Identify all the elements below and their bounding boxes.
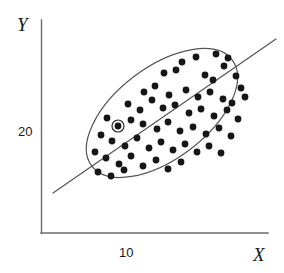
data-point (146, 145, 153, 152)
data-point (98, 132, 105, 139)
data-point (224, 107, 231, 114)
data-point (229, 100, 236, 107)
data-point (122, 143, 129, 150)
data-point (128, 117, 135, 124)
data-point (242, 94, 249, 101)
data-point (193, 54, 200, 61)
data-point (186, 110, 193, 117)
data-point (216, 125, 223, 132)
data-point (213, 51, 220, 58)
regression-line (53, 39, 276, 193)
data-point (153, 157, 160, 164)
data-point (165, 166, 172, 173)
y-axis-title: Y (17, 14, 30, 35)
data-point (182, 141, 189, 148)
data-point (238, 85, 245, 92)
data-point (207, 89, 214, 96)
data-point (137, 107, 144, 114)
data-point (210, 77, 217, 84)
data-point (195, 94, 202, 101)
data-point (165, 119, 172, 126)
data-point (161, 70, 168, 77)
data-point (206, 143, 213, 150)
plot-canvas: Y X 20 10 (0, 0, 284, 273)
data-points-group (92, 51, 249, 180)
y-tick-label-20: 20 (18, 124, 32, 139)
data-point (115, 123, 122, 130)
data-point (178, 159, 185, 166)
data-point (141, 89, 148, 96)
data-point (183, 87, 190, 94)
data-point (198, 106, 205, 113)
data-point (220, 96, 227, 103)
data-point (134, 135, 141, 142)
data-point (108, 173, 115, 180)
data-point (116, 161, 123, 168)
data-point (158, 139, 165, 146)
scatter-plot-figure: Y X 20 10 (0, 0, 284, 273)
data-point (103, 155, 110, 162)
data-point (225, 55, 232, 62)
data-point (160, 105, 167, 112)
data-point (233, 73, 240, 80)
data-point (125, 101, 132, 108)
data-point (179, 59, 186, 66)
data-point (149, 97, 156, 104)
data-point (218, 150, 225, 157)
data-point (173, 67, 180, 74)
data-point (128, 153, 135, 160)
data-point (211, 113, 218, 120)
data-point (194, 149, 201, 156)
data-point (140, 163, 147, 170)
x-axis-title: X (252, 244, 266, 265)
data-point (104, 115, 111, 122)
data-point (228, 133, 235, 140)
data-point (95, 169, 102, 176)
data-point (177, 128, 184, 135)
data-point (109, 138, 116, 145)
data-point (221, 63, 228, 70)
data-point (203, 131, 210, 138)
data-point (140, 121, 147, 128)
data-point (202, 72, 209, 79)
concentration-ellipse (64, 23, 260, 202)
data-point (121, 167, 128, 174)
data-point (190, 124, 197, 131)
data-point (154, 126, 161, 133)
data-point (172, 102, 179, 109)
x-tick-label-10: 10 (119, 245, 133, 260)
data-point (152, 83, 159, 90)
data-point (170, 147, 177, 154)
data-point (92, 149, 99, 156)
data-point (166, 92, 173, 99)
data-point (235, 116, 242, 123)
